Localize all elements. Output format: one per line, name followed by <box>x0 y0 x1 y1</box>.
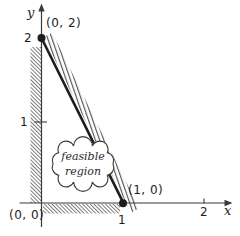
x-tick-label-1: 1 <box>118 214 126 226</box>
point-label-1-0: (1, 0) <box>128 184 163 196</box>
y-axis-hatching <box>31 47 42 203</box>
plot-canvas <box>0 0 240 236</box>
feasible-region-figure: y (0, 2) 2 1 (0, 0) 1 (1, 0) 2 x feasibl… <box>0 0 240 236</box>
y-axis-arrowhead <box>38 4 44 12</box>
point-dot-0-2 <box>38 34 46 42</box>
feasible-region-label: feasible region <box>61 149 104 179</box>
y-tick-label-1: 1 <box>20 116 28 128</box>
feasible-region-label-line2: region <box>61 164 104 179</box>
y-tick-label-2: 2 <box>24 32 32 44</box>
x-tick-label-2: 2 <box>200 206 208 218</box>
point-dot-1-0 <box>119 199 127 207</box>
feasible-region-label-line1: feasible <box>61 149 104 164</box>
x-axis-hatching <box>43 204 120 214</box>
x-axis-label: x <box>224 204 231 217</box>
point-label-0-2: (0, 2) <box>46 17 81 29</box>
origin-label: (0, 0) <box>9 209 44 221</box>
y-axis-label: y <box>27 6 34 19</box>
